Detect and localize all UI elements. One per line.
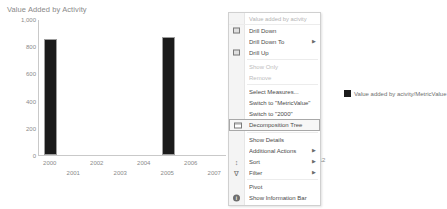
context-menu[interactable]: Value added by acivity Drill DownDrill D… bbox=[228, 12, 321, 206]
menu-item-label: Sort bbox=[249, 159, 312, 165]
bar[interactable] bbox=[162, 37, 175, 155]
menu-item-label: Additional Actions bbox=[249, 148, 312, 154]
x-axis-tick: 2002 bbox=[90, 160, 103, 166]
submenu-arrow-icon: ▶ bbox=[312, 159, 316, 164]
menu-item-label: Show Only bbox=[249, 64, 316, 70]
menu-item-sort[interactable]: ↕Sort▶ bbox=[229, 156, 320, 167]
menu-item-show-information-bar[interactable]: iShow Information Bar bbox=[229, 192, 320, 203]
context-menu-header: Value added by acivity bbox=[229, 14, 320, 25]
y-axis-tick: 200 bbox=[26, 126, 36, 132]
x-axis-tick: 2006 bbox=[184, 160, 197, 166]
chart-legend: Value added by acivity/MetricValue bbox=[344, 90, 447, 97]
filter-icon: ∇ bbox=[232, 168, 241, 177]
y-axis-tick: 600 bbox=[26, 71, 36, 77]
menu-item-show-details[interactable]: Show Details bbox=[229, 134, 320, 145]
plot-area[interactable]: 02004006008001,000 bbox=[38, 20, 226, 156]
menu-item-label: Drill Down bbox=[249, 28, 316, 34]
menu-item-drill-up[interactable]: Drill Up bbox=[229, 47, 320, 58]
chart-title: Value Added by Activity bbox=[7, 5, 87, 14]
menu-separator bbox=[247, 132, 318, 133]
menu-item-select-measures[interactable]: Select Measures... bbox=[229, 86, 320, 97]
menu-item-label: Switch to "2000" bbox=[249, 111, 316, 117]
drill-down-icon bbox=[232, 26, 241, 35]
menu-item-decomposition-tree[interactable]: Decomposition Tree bbox=[229, 119, 320, 131]
menu-separator bbox=[247, 179, 318, 180]
decomposition-tree-icon bbox=[233, 121, 242, 130]
menu-item-drill-down[interactable]: Drill Down bbox=[229, 25, 320, 36]
x-axis-tick: 2000 bbox=[43, 160, 56, 166]
menu-item-pivot[interactable]: Pivot bbox=[229, 181, 320, 192]
menu-item-label: Show Information Bar bbox=[249, 195, 316, 201]
drill-up-icon bbox=[232, 48, 241, 57]
y-axis-tick: 800 bbox=[26, 44, 36, 50]
menu-item-filter[interactable]: ∇Filter▶ bbox=[229, 167, 320, 178]
submenu-arrow-icon: ▶ bbox=[312, 148, 316, 153]
menu-item-label: Drill Down To bbox=[249, 39, 312, 45]
legend-swatch-icon bbox=[344, 90, 351, 97]
information-bar-icon: i bbox=[232, 193, 241, 202]
context-menu-items: Drill DownDrill Down To▶Drill UpShow Onl… bbox=[229, 25, 320, 203]
x-axis-tick: 2001 bbox=[67, 170, 80, 176]
menu-item-label: Pivot bbox=[249, 184, 316, 190]
y-axis-tick: 0 bbox=[33, 153, 36, 159]
sort-icon: ↕ bbox=[232, 157, 241, 166]
menu-item-label: Select Measures... bbox=[249, 89, 316, 95]
menu-item-label: Filter bbox=[249, 170, 312, 176]
menu-item-label: Remove bbox=[249, 75, 316, 81]
menu-item-show-only: Show Only bbox=[229, 61, 320, 72]
y-axis-tick: 1,000 bbox=[21, 17, 36, 23]
bar[interactable] bbox=[44, 39, 57, 155]
legend-label: Value added by acivity/MetricValue bbox=[354, 91, 447, 97]
menu-item-label: Decomposition Tree bbox=[249, 122, 315, 128]
menu-separator bbox=[247, 59, 318, 60]
menu-item-drill-down-to[interactable]: Drill Down To▶ bbox=[229, 36, 320, 47]
x-axis-tick: 2004 bbox=[137, 160, 150, 166]
y-axis-tick: 400 bbox=[26, 99, 36, 105]
menu-item-label: Switch to "MetricValue" bbox=[249, 100, 316, 106]
submenu-arrow-icon: ▶ bbox=[312, 39, 316, 44]
x-axis-tick: 2005 bbox=[161, 170, 174, 176]
menu-item-switch-to-metricvalue[interactable]: Switch to "MetricValue" bbox=[229, 97, 320, 108]
menu-separator bbox=[247, 84, 318, 85]
submenu-arrow-icon: ▶ bbox=[312, 170, 316, 175]
menu-item-label: Show Details bbox=[249, 137, 316, 143]
menu-item-label: Drill Up bbox=[249, 50, 316, 56]
menu-item-additional-actions[interactable]: Additional Actions▶ bbox=[229, 145, 320, 156]
x-axis-tick: 2003 bbox=[114, 170, 127, 176]
menu-item-switch-to-2000[interactable]: Switch to "2000" bbox=[229, 108, 320, 119]
x-axis-tick: 2007 bbox=[208, 170, 221, 176]
menu-item-remove: Remove bbox=[229, 72, 320, 83]
